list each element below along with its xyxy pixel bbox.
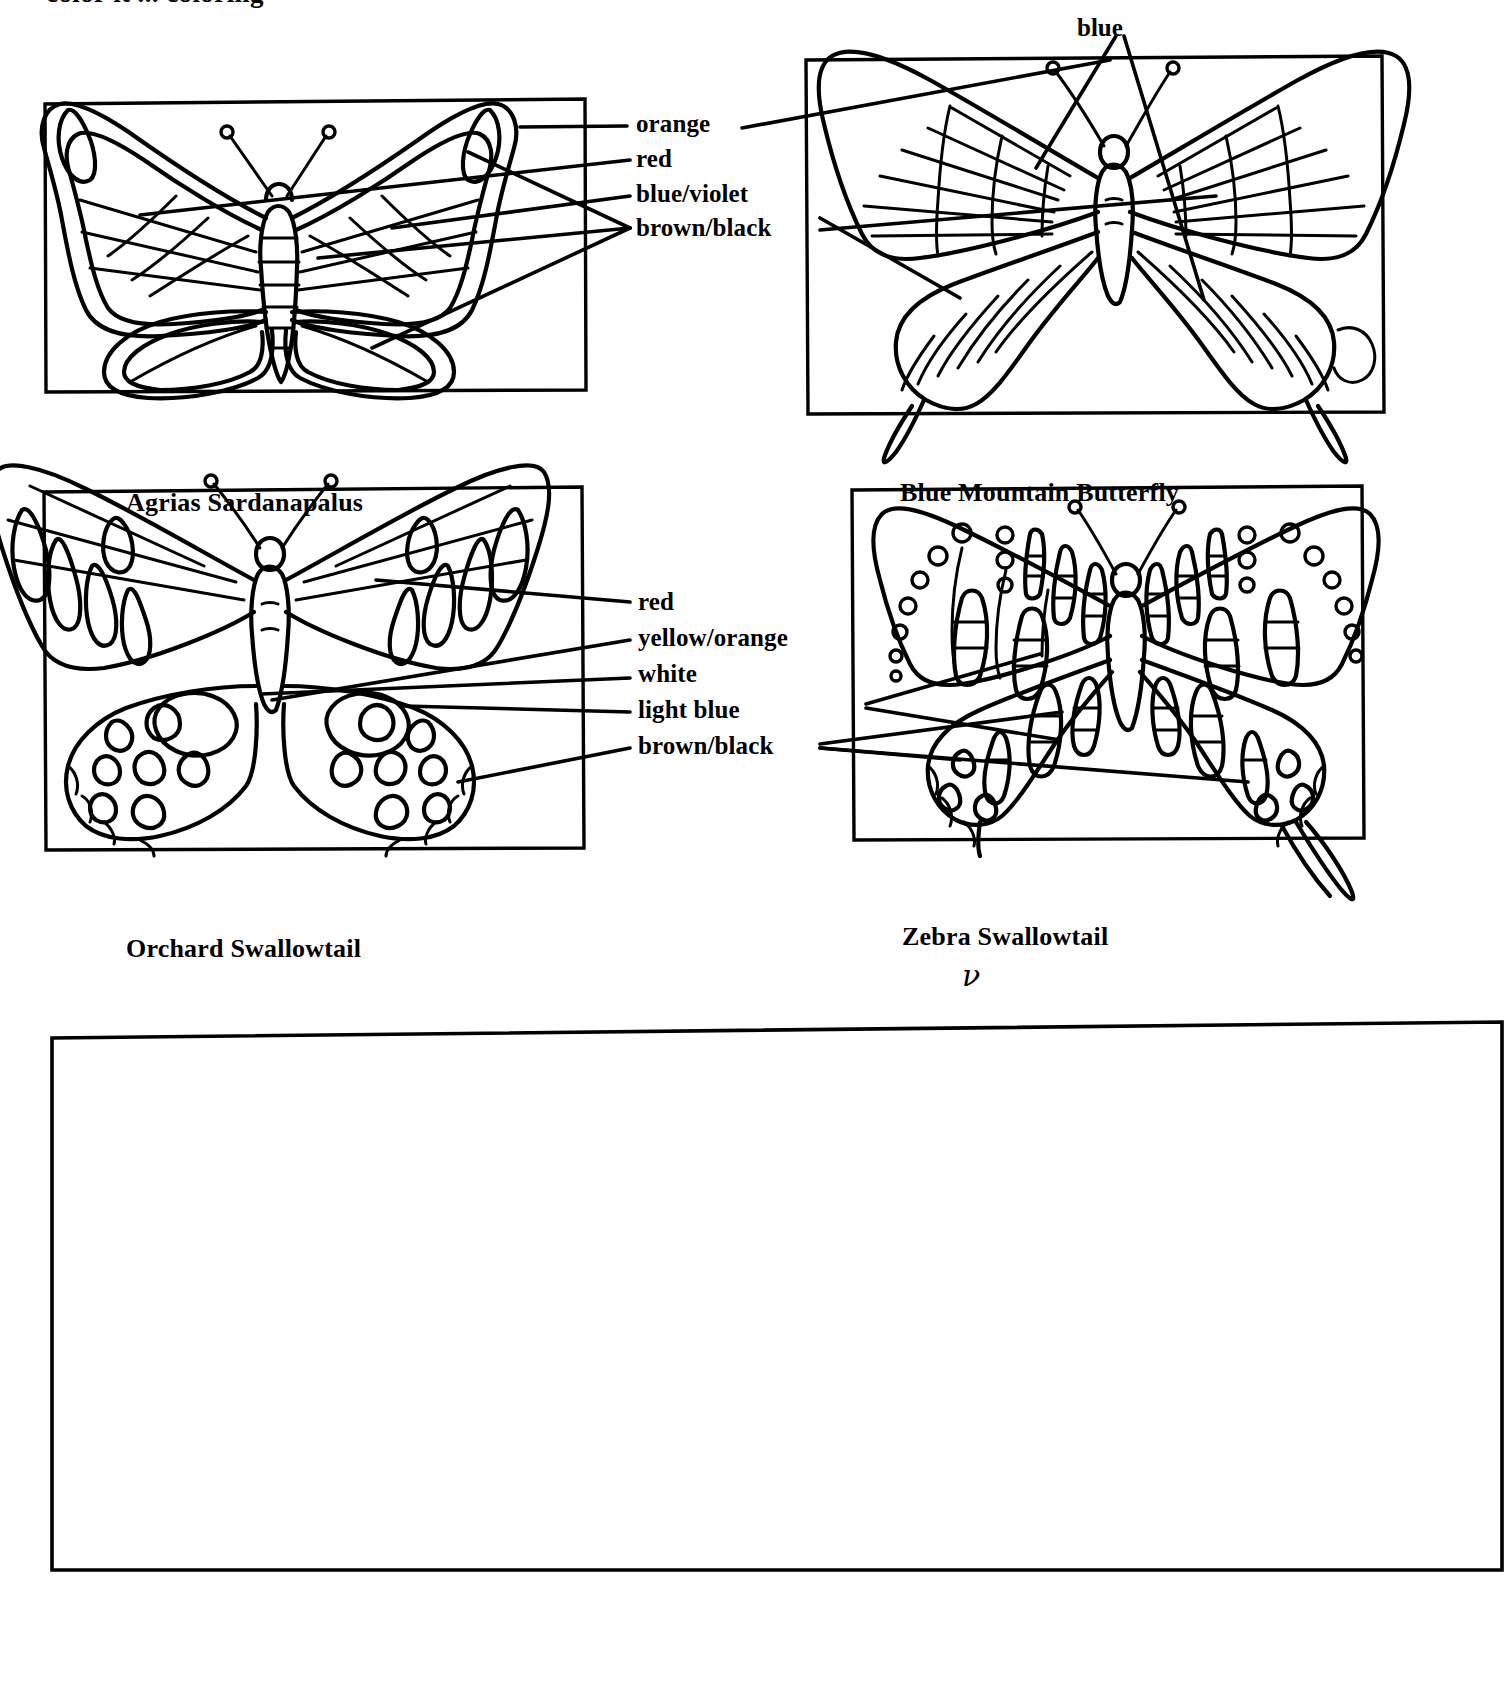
zebra-leader-lines: [820, 654, 1248, 782]
legend-label-light-blue: light blue: [638, 696, 740, 724]
legend-label-yellow-orange: yellow/orange: [638, 624, 788, 652]
handwritten-nu-mark: ν: [962, 958, 980, 993]
legend-label-orange: orange: [636, 110, 710, 138]
butterfly-line-art: [0, 0, 1508, 1695]
zebra-swallowtail-drawing: [852, 486, 1379, 899]
species-caption-blue-mountain-butterfly: Blue Mountain Butterfly: [900, 478, 1179, 508]
orchard-swallowtail-drawing: [0, 465, 584, 856]
species-caption-agrias-sardanapalus: Agrias Sardanapalus: [126, 488, 363, 518]
blue-mountain-leader-lines: [742, 36, 1216, 300]
species-caption-orchard-swallowtail: Orchard Swallowtail: [126, 934, 361, 964]
legend-label-blue-violet: blue/violet: [636, 180, 748, 208]
blue-mountain-butterfly-drawing: [806, 52, 1409, 463]
legend-label-brown-black-top: brown/black: [636, 214, 771, 242]
agrias-leader-lines: [140, 126, 630, 348]
legend-label-brown-black-bottom: brown/black: [638, 732, 773, 760]
worksheet-page: color it ... coloring: [0, 0, 1508, 1695]
answer-box: [52, 1022, 1502, 1570]
legend-label-red-bottom: red: [638, 588, 674, 616]
orchard-leader-lines: [262, 580, 630, 782]
page-heading-clipped: color it ... coloring: [46, 0, 264, 9]
species-caption-zebra-swallowtail: Zebra Swallowtail: [902, 922, 1108, 952]
agrias-sardanapalus-drawing: [42, 99, 586, 398]
legend-label-white: white: [638, 660, 697, 688]
legend-label-blue-top: blue: [1077, 14, 1123, 42]
legend-label-red: red: [636, 145, 672, 173]
